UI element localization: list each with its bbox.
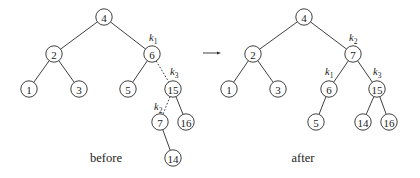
tree-node-16: 16 xyxy=(178,114,194,130)
edge-15-16 xyxy=(380,97,386,115)
before-caption: before xyxy=(90,151,122,165)
after-tree: 4271361551416k2k1k3after xyxy=(221,9,397,165)
k1-label: k1 xyxy=(149,32,158,46)
tree-node-4: 4 xyxy=(296,9,312,25)
tree-node-2: 2 xyxy=(46,46,62,62)
node-value: 2 xyxy=(250,49,256,61)
edge-4-6 xyxy=(110,22,145,49)
tree-node-1: 1 xyxy=(21,81,37,97)
node-value: 14 xyxy=(168,153,180,165)
node-value: 5 xyxy=(313,117,319,129)
edge-4-7 xyxy=(311,22,347,49)
tree-rotation-diagram: 4261351571614k1k3k2before 4271361551416k… xyxy=(0,0,420,178)
node-value: 6 xyxy=(326,84,332,96)
arrow-head xyxy=(217,51,221,54)
edge-2-3 xyxy=(258,61,273,83)
tree-node-4: 4 xyxy=(96,9,112,25)
edge-2-1 xyxy=(34,61,49,83)
node-value: 4 xyxy=(301,12,307,24)
node-value: 5 xyxy=(125,84,131,96)
node-value: 16 xyxy=(384,117,396,129)
tree-node-3: 3 xyxy=(71,81,87,97)
tree-node-1: 1 xyxy=(221,81,237,97)
tree-node-2: 2 xyxy=(245,46,261,62)
edge-7-14 xyxy=(163,130,170,151)
node-value: 7 xyxy=(157,117,163,129)
edge-6-5 xyxy=(133,61,148,82)
node-value: 7 xyxy=(350,49,356,61)
node-value: 15 xyxy=(372,84,384,96)
k2-label: k2 xyxy=(154,101,163,115)
node-value: 6 xyxy=(149,49,155,61)
tree-node-6: 6 xyxy=(144,46,160,62)
tree-node-5: 5 xyxy=(120,81,136,97)
tree-node-16: 16 xyxy=(381,114,397,130)
node-value: 3 xyxy=(275,84,281,96)
node-value: 4 xyxy=(101,12,107,24)
k2-label: k2 xyxy=(349,32,358,46)
edge-7-15 xyxy=(358,61,373,82)
edge-2-3 xyxy=(59,61,74,83)
edge-15-7 xyxy=(163,97,170,115)
edge-6-5 xyxy=(319,97,326,115)
node-value: 3 xyxy=(76,84,82,96)
k3-label: k3 xyxy=(373,66,382,80)
before-tree: 4261351571614k1k3k2before xyxy=(21,9,194,166)
node-value: 2 xyxy=(51,49,57,61)
edge-4-2 xyxy=(260,22,298,49)
edge-15-16 xyxy=(176,97,183,115)
edge-2-1 xyxy=(234,61,249,82)
tree-node-5: 5 xyxy=(308,114,324,130)
after-caption: after xyxy=(292,151,316,165)
node-value: 15 xyxy=(168,84,180,96)
tree-node-3: 3 xyxy=(270,81,286,97)
k3-label: k3 xyxy=(170,66,179,80)
tree-node-6: 6 xyxy=(321,81,337,97)
tree-node-14: 14 xyxy=(355,114,371,130)
tree-node-15: 15 xyxy=(165,81,181,97)
right-arrow-icon xyxy=(203,51,221,54)
node-value: 1 xyxy=(26,84,32,96)
edge-7-6 xyxy=(334,61,349,82)
tree-node-7: 7 xyxy=(152,114,168,130)
node-value: 16 xyxy=(181,117,193,129)
k1-label: k1 xyxy=(325,66,334,80)
edge-6-15 xyxy=(156,61,169,82)
tree-node-7: 7 xyxy=(345,46,361,62)
edge-15-14 xyxy=(366,97,374,115)
tree-node-15: 15 xyxy=(369,81,385,97)
node-value: 14 xyxy=(358,117,370,129)
edge-4-2 xyxy=(61,22,98,49)
node-value: 1 xyxy=(226,84,232,96)
tree-node-14: 14 xyxy=(165,150,181,166)
